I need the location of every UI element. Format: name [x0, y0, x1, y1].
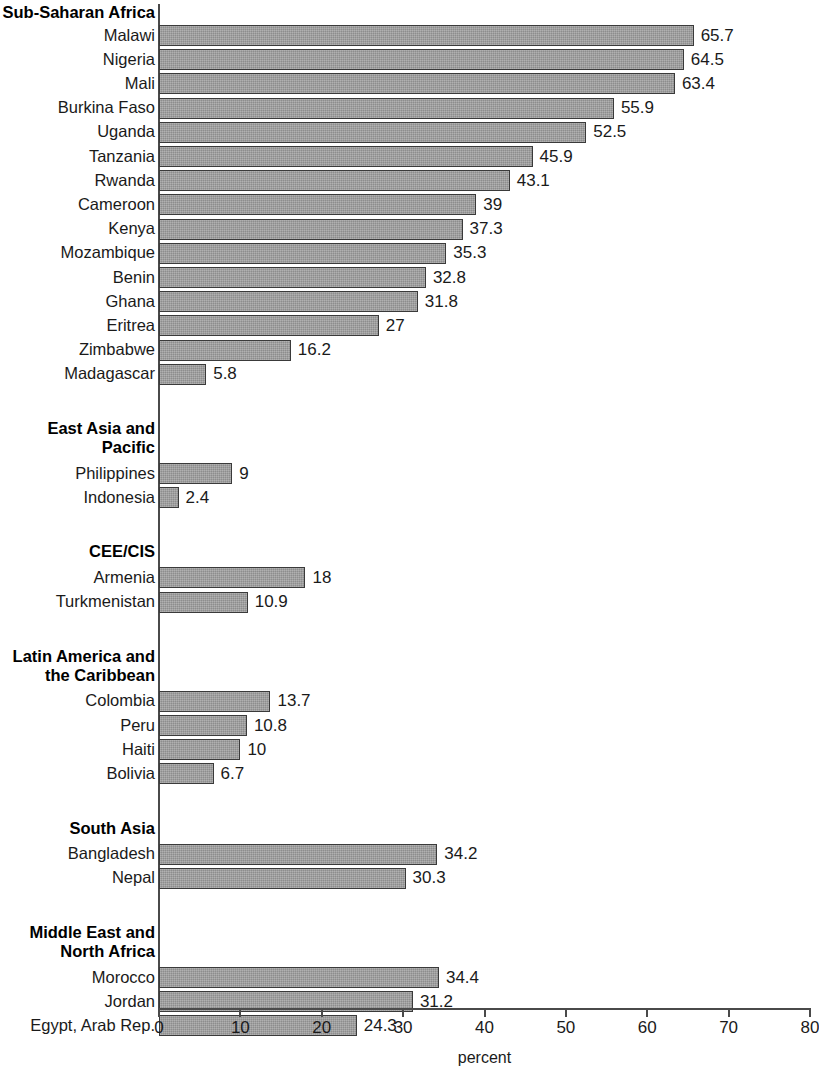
category-label: Colombia [85, 693, 155, 710]
bar-value-label: 5.8 [213, 364, 237, 384]
bar [159, 592, 248, 613]
group-heading: CEE/CIS [89, 542, 155, 561]
bar [159, 715, 247, 736]
x-tick-label: 40 [475, 1018, 494, 1038]
x-tick [728, 1010, 730, 1017]
category-label: Rwanda [94, 172, 155, 189]
bar-chart: Sub-Saharan AfricaMalawi65.7Nigeria64.5M… [0, 0, 819, 1074]
chart-row: Ghana31.8 [0, 291, 819, 312]
category-label: Armenia [94, 569, 155, 586]
group-heading: Middle East and North Africa [29, 923, 155, 961]
x-axis-title: percent [0, 1049, 819, 1067]
x-tick [809, 1010, 811, 1017]
chart-row: Peru10.8 [0, 715, 819, 736]
x-tick-label: 50 [556, 1018, 575, 1038]
bar [159, 844, 437, 865]
bar [159, 170, 510, 191]
bar [159, 291, 418, 312]
bar [159, 49, 684, 70]
bar-value-label: 34.4 [446, 968, 479, 988]
bar-value-label: 32.8 [433, 268, 466, 288]
x-tick-label: 20 [312, 1018, 331, 1038]
category-label: Burkina Faso [58, 99, 155, 116]
x-tick [239, 1010, 241, 1017]
chart-row: Armenia18 [0, 567, 819, 588]
group-heading: Latin America and the Caribbean [13, 647, 155, 685]
category-label: Indonesia [83, 489, 155, 506]
chart-row: Uganda52.5 [0, 122, 819, 143]
category-label: Tanzania [89, 148, 155, 165]
chart-row: Tanzania45.9 [0, 146, 819, 167]
category-label: Egypt, Arab Rep. [30, 1017, 155, 1034]
x-axis-title-label: percent [458, 1049, 511, 1067]
x-tick-label: 80 [801, 1018, 819, 1038]
category-label: Zimbabwe [79, 341, 155, 358]
category-label: Madagascar [64, 366, 155, 383]
category-label: Nepal [112, 870, 155, 887]
category-label: Ghana [105, 293, 155, 310]
bar-value-label: 43.1 [517, 171, 550, 191]
x-tick-label: 30 [394, 1018, 413, 1038]
chart-row: Indonesia2.4 [0, 487, 819, 508]
chart-row: Zimbabwe16.2 [0, 340, 819, 361]
bar-value-label: 39 [483, 195, 502, 215]
chart-row: Madagascar5.8 [0, 364, 819, 385]
category-label: Malawi [104, 27, 155, 44]
bar-value-label: 10.9 [255, 592, 288, 612]
category-label: Mozambique [61, 245, 155, 262]
category-label: Haiti [122, 741, 155, 758]
category-label: Nigeria [103, 51, 155, 68]
bar-value-label: 27 [386, 316, 405, 336]
bar-value-label: 65.7 [701, 26, 734, 46]
bar [159, 243, 446, 264]
bar [159, 194, 476, 215]
bar-value-label: 10 [247, 740, 266, 760]
chart-row: Burkina Faso55.9 [0, 98, 819, 119]
bar-value-label: 18 [312, 568, 331, 588]
x-tick-label: 10 [231, 1018, 250, 1038]
x-tick [402, 1010, 404, 1017]
bar-value-label: 13.7 [277, 691, 310, 711]
bar-value-label: 52.5 [593, 122, 626, 142]
x-tick [321, 1010, 323, 1017]
bar [159, 25, 694, 46]
x-tick-label: 0 [154, 1018, 163, 1038]
x-tick [646, 1010, 648, 1017]
bar [159, 122, 586, 143]
bar [159, 567, 305, 588]
group-heading: Sub-Saharan Africa [2, 3, 155, 22]
bar-value-label: 45.9 [540, 147, 573, 167]
bar-value-label: 24.3 [364, 1016, 397, 1036]
chart-row: Mozambique35.3 [0, 243, 819, 264]
x-tick-label: 60 [638, 1018, 657, 1038]
category-label: Uganda [97, 124, 155, 141]
category-label: Eritrea [106, 317, 155, 334]
bar-value-label: 16.2 [298, 340, 331, 360]
bar [159, 340, 291, 361]
group-heading: South Asia [69, 819, 155, 838]
chart-row: Colombia13.7 [0, 691, 819, 712]
bar [159, 315, 379, 336]
chart-row: Cameroon39 [0, 194, 819, 215]
chart-row: Turkmenistan10.9 [0, 592, 819, 613]
bar-value-label: 34.2 [444, 844, 477, 864]
bar [159, 219, 463, 240]
chart-row: Eritrea27 [0, 315, 819, 336]
x-tick [565, 1010, 567, 1017]
category-label: Mali [125, 75, 155, 92]
chart-row: Kenya37.3 [0, 219, 819, 240]
bar-value-label: 35.3 [453, 243, 486, 263]
bar [159, 98, 614, 119]
chart-row: Mali63.4 [0, 73, 819, 94]
category-label: Peru [120, 717, 155, 734]
category-label: Kenya [108, 220, 155, 237]
x-tick [484, 1010, 486, 1017]
chart-row: Morocco34.4 [0, 967, 819, 988]
bar-value-label: 9 [239, 464, 248, 484]
bar-value-label: 2.4 [186, 488, 210, 508]
bar [159, 463, 232, 484]
x-tick-label: 70 [719, 1018, 738, 1038]
chart-row: Bolivia6.7 [0, 763, 819, 784]
bar [159, 73, 675, 94]
category-label: Cameroon [78, 196, 155, 213]
